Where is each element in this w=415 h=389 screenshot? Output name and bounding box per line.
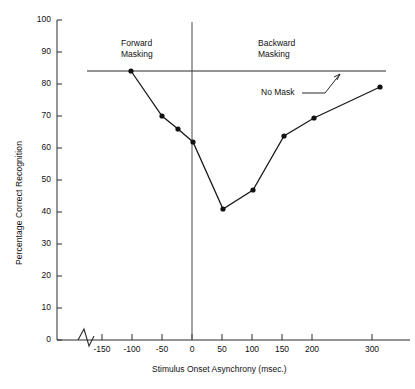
x-tick-label-200: 200 (292, 344, 332, 354)
data-point (377, 84, 382, 89)
no-mask-annotation-arrow (302, 74, 340, 93)
y-tick-label-100: 100 (25, 14, 51, 24)
data-point (128, 68, 133, 73)
data-point (311, 115, 316, 120)
y-tick-label-10: 10 (25, 302, 51, 312)
forward-masking-label-line1: Forward (121, 38, 152, 49)
data-point (159, 113, 164, 118)
data-point (220, 206, 225, 211)
backward-masking-label-line2: Masking (258, 49, 290, 60)
y-tick-label-50: 50 (25, 174, 51, 184)
data-point (190, 139, 195, 144)
no-mask-label: No Mask (261, 87, 295, 98)
y-tick-label-80: 80 (25, 78, 51, 88)
forward-masking-label-line2: Masking (121, 49, 153, 60)
y-axis-ticks (57, 20, 62, 340)
data-point-markers (128, 68, 382, 211)
y-tick-label-90: 90 (25, 46, 51, 56)
y-axis-title: Percentage Correct Recognition (14, 141, 24, 265)
y-tick-label-60: 60 (25, 142, 51, 152)
chart-figure: 100 90 80 70 60 50 40 30 20 10 0 -150 -1… (0, 0, 415, 389)
x-tick-label-300: 300 (352, 344, 392, 354)
y-tick-label-30: 30 (25, 238, 51, 248)
data-series-line (131, 71, 380, 209)
y-tick-label-70: 70 (25, 110, 51, 120)
data-point (175, 126, 180, 131)
backward-masking-label-line1: Backward (258, 38, 295, 49)
y-tick-label-0: 0 (25, 334, 51, 344)
x-axis-title: Stimulus Onset Asynchrony (msec.) (152, 364, 287, 374)
x-axis-ticks (102, 334, 372, 340)
data-point (250, 187, 255, 192)
data-point (281, 133, 286, 138)
chart-plot-area (0, 0, 415, 389)
y-tick-label-20: 20 (25, 270, 51, 280)
y-tick-label-40: 40 (25, 206, 51, 216)
